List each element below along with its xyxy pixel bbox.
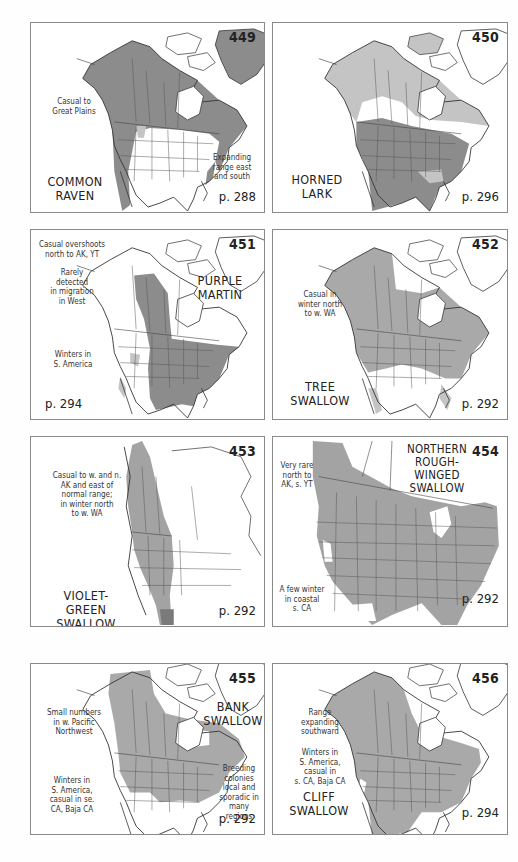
range-map-452: 452 Casual inwinter northto w. WA TREESW… bbox=[272, 229, 508, 420]
field-guide-map-page: 449 Casual toGreat Plains Expandingrange… bbox=[0, 0, 518, 862]
species-name: TREESWALLOW bbox=[289, 380, 351, 408]
map-number: 456 bbox=[472, 670, 499, 686]
range-map-451: 451 Casual overshootsnorth to AK, YT Rar… bbox=[30, 229, 265, 420]
range-map-450: 450 HORNEDLARK p. 296 bbox=[272, 22, 508, 213]
species-name: PURPLEMARTIN bbox=[189, 274, 251, 302]
species-name: COMMONRAVEN bbox=[45, 175, 105, 203]
range-note: Expandingrange eastand south bbox=[203, 153, 261, 182]
range-map-455: 455 BANKSWALLOW Small numbersin w. Pacif… bbox=[30, 663, 265, 835]
species-name: HORNEDLARK bbox=[287, 173, 347, 201]
range-note: Winters inS. America,casual in se.CA, Ba… bbox=[41, 776, 103, 814]
range-note: A few winterin coastals. CA bbox=[277, 585, 327, 614]
range-note: Small numbersin w. PacificNorthwest bbox=[41, 708, 107, 737]
range-note: Casual overshootsnorth to AK, YT bbox=[33, 240, 111, 259]
map-number: 450 bbox=[472, 29, 499, 45]
map-number: 452 bbox=[472, 236, 499, 252]
page-reference: p. 294 bbox=[462, 805, 499, 820]
range-note: Casual to w. and n.AK and east ofnormal … bbox=[49, 471, 125, 519]
page-reference: p. 294 bbox=[45, 396, 82, 411]
range-note: Casual inwinter northto w. WA bbox=[291, 290, 349, 319]
map-number: 451 bbox=[229, 236, 256, 252]
range-note: Rarelydetectedin migrationin West bbox=[41, 268, 103, 306]
map-number: 455 bbox=[229, 670, 256, 686]
map-number: 453 bbox=[229, 443, 256, 459]
page-reference: p. 296 bbox=[462, 189, 499, 204]
page-reference: p. 292 bbox=[462, 591, 499, 606]
species-name: VIOLET-GREENSWALLOW bbox=[43, 589, 129, 627]
species-name: NORTHERNROUGH-WINGEDSWALLOW bbox=[401, 443, 473, 495]
map-number: 454 bbox=[472, 443, 499, 459]
range-map-454: 454 NORTHERNROUGH-WINGEDSWALLOW Very rar… bbox=[272, 436, 508, 627]
range-note: Casual toGreat Plains bbox=[43, 97, 105, 116]
page-reference: p. 292 bbox=[219, 811, 256, 826]
range-map-449: 449 Casual toGreat Plains Expandingrange… bbox=[30, 22, 265, 213]
range-note: Winters inS. America bbox=[45, 350, 101, 369]
range-note: Winters inS. America,casual ins. CA, Baj… bbox=[289, 748, 351, 786]
range-map-456: 456 Rangeexpandingsouthward Winters inS.… bbox=[272, 663, 508, 835]
map-number: 449 bbox=[229, 29, 256, 45]
species-name: CLIFFSWALLOW bbox=[287, 790, 351, 818]
page-reference: p. 292 bbox=[219, 603, 256, 618]
page-reference: p. 288 bbox=[219, 189, 256, 204]
range-note: Very rarenorth toAK, s. YT bbox=[277, 461, 317, 490]
page-reference: p. 292 bbox=[462, 396, 499, 411]
range-note: Rangeexpandingsouthward bbox=[295, 708, 345, 737]
range-map-453: 453 Casual to w. and n.AK and east ofnor… bbox=[30, 436, 265, 627]
species-name: BANKSWALLOW bbox=[202, 700, 264, 728]
